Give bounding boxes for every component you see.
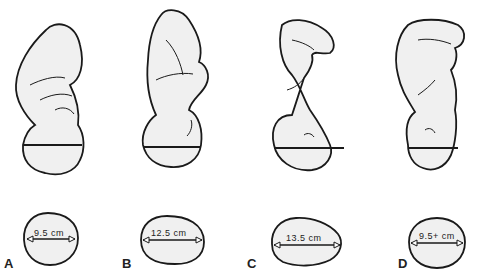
panel-letter-c: C (247, 256, 256, 271)
panel-a: 9.5 cm A (0, 0, 121, 275)
fetus-illustration-b (121, 0, 242, 200)
panel-letter-b: B (122, 256, 131, 271)
diameter-label-c: 13.5 cm (286, 233, 322, 243)
diameter-label-a: 9.5 cm (34, 228, 64, 238)
panel-b: 12.5 cm B (121, 0, 242, 275)
fetus-illustration-d (363, 0, 484, 200)
diameter-label-b: 12.5 cm (151, 228, 187, 238)
diameter-label-d: 9.5+ cm (419, 231, 455, 241)
head-section-a (20, 210, 82, 268)
panel-d: 9.5+ cm D (363, 0, 484, 275)
panel-letter-d: D (398, 256, 407, 271)
head-section-d (405, 214, 469, 272)
head-section-b (137, 212, 209, 268)
panel-c: 13.5 cm C (242, 0, 363, 275)
panel-letter-a: A (4, 256, 13, 271)
fetus-illustration-c (242, 0, 363, 200)
fetus-illustration-a (0, 0, 121, 200)
